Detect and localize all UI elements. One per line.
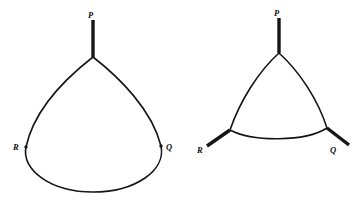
right-curve-outline [230,53,327,139]
right-vertex-q-ray [327,128,349,145]
right-vertex-label-r: R [197,146,203,155]
right-diagram [0,0,363,203]
right-vertex-label-q: Q [330,146,336,155]
right-vertex-label-p: P [274,9,279,18]
right-vertex-r-ray [207,130,230,146]
figure-canvas: P Q R P Q R [0,0,363,203]
